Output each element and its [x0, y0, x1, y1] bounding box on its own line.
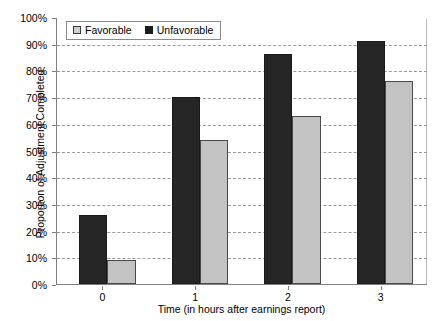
plot-area [56, 18, 427, 285]
x-tick-mark [195, 286, 196, 290]
y-tick-label: 60% [26, 120, 47, 130]
chart-legend: Favorable Unfavorable [66, 21, 221, 40]
favorable-swatch-icon [73, 26, 81, 34]
bar-chart: Proportion of Adjustment Completed 100%9… [0, 0, 439, 321]
bar-group [57, 18, 150, 284]
bar-groups [57, 18, 427, 284]
x-axis-title: Time (in hours after earnings report) [56, 303, 427, 315]
bar-unfavorable [172, 97, 200, 284]
bar-group [242, 18, 335, 284]
y-tick-label: 0% [32, 280, 47, 290]
y-tick-label: 90% [26, 40, 47, 50]
y-tick-label: 40% [26, 173, 47, 183]
bar-favorable [107, 260, 135, 284]
y-tick-label: 100% [20, 13, 47, 23]
x-tick-mark [288, 286, 289, 290]
y-tick-label: 50% [26, 147, 47, 157]
bar-unfavorable [264, 54, 292, 284]
x-tick-label: 0 [56, 291, 149, 303]
x-tick-label: 1 [149, 291, 242, 303]
bar-favorable [200, 140, 228, 284]
y-axis-ticks: 100%90%80%70%60%50%40%30%20%10%0% [0, 0, 52, 321]
y-tick-label: 10% [26, 253, 47, 263]
unfavorable-swatch-icon [145, 26, 153, 34]
legend-item-favorable: Favorable [73, 24, 132, 36]
x-tick-label: 2 [242, 291, 335, 303]
bar-group [335, 18, 428, 284]
bar-unfavorable [79, 215, 107, 284]
y-tick-label: 20% [26, 227, 47, 237]
y-tick-label: 30% [26, 200, 47, 210]
x-tick-label: 3 [334, 291, 427, 303]
bar-favorable [385, 81, 413, 284]
bar-unfavorable [357, 41, 385, 284]
legend-label-favorable: Favorable [85, 24, 132, 36]
legend-item-unfavorable: Unfavorable [145, 24, 214, 36]
y-tick-label: 80% [26, 66, 47, 76]
bar-group [150, 18, 243, 284]
bar-favorable [292, 116, 320, 284]
y-tick-label: 70% [26, 93, 47, 103]
x-tick-mark [102, 286, 103, 290]
x-tick-mark [381, 286, 382, 290]
legend-label-unfavorable: Unfavorable [157, 24, 214, 36]
